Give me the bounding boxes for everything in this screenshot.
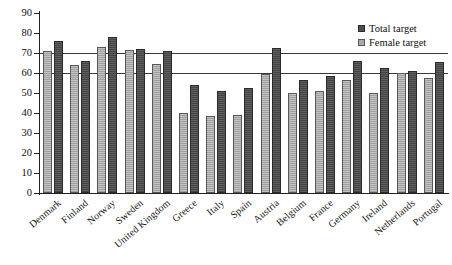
bar-group	[152, 13, 175, 193]
bar-female-united-kingdom	[152, 64, 161, 193]
y-axis-tick-label: 10	[6, 168, 32, 178]
bar-total-united-kingdom	[163, 51, 172, 193]
y-axis-tick-label: 30	[6, 128, 32, 138]
y-axis-tick-label: 50	[6, 88, 32, 98]
x-axis-tick-label: Belgium	[274, 197, 308, 228]
bar-group	[125, 13, 148, 193]
bar-female-finland	[70, 65, 79, 193]
x-axis-tick-label: United Kingdom	[112, 197, 172, 250]
legend-label: Total target	[369, 23, 417, 34]
bar-total-austria	[272, 48, 281, 193]
bar-female-italy	[206, 116, 215, 193]
bar-female-netherlands	[397, 73, 406, 193]
chart-legend: Total targetFemale target	[358, 22, 452, 50]
bar-female-belgium	[288, 93, 297, 193]
bar-total-spain	[244, 88, 253, 193]
x-axis-tick-label: Denmark	[27, 197, 63, 230]
bar-group	[179, 13, 202, 193]
bar-total-denmark	[54, 41, 63, 193]
bar-total-greece	[190, 85, 199, 193]
x-axis-tick-label: France	[307, 197, 335, 223]
bar-female-germany	[342, 80, 351, 193]
legend-item: Total target	[358, 22, 452, 34]
x-axis-tick-label: Austria	[251, 197, 281, 225]
bar-group	[315, 13, 338, 193]
bar-total-france	[326, 76, 335, 193]
bar-female-norway	[97, 47, 106, 193]
x-axis-tick-label: Netherlands	[372, 197, 417, 237]
bar-total-belgium	[299, 80, 308, 193]
bar-total-portugal	[435, 62, 444, 193]
x-axis-tick-label: Norway	[85, 197, 117, 227]
y-axis-tick-labels: 0102030405060708090	[0, 0, 32, 265]
bar-group	[233, 13, 256, 193]
bar-group	[261, 13, 284, 193]
x-axis-tick-label: Italy	[205, 197, 226, 218]
bar-female-austria	[261, 74, 270, 193]
bar-female-ireland	[369, 93, 378, 193]
x-axis-tick-label: Sweden	[113, 197, 145, 226]
x-axis-tick-label: Greece	[170, 197, 199, 224]
bar-group	[206, 13, 229, 193]
bar-total-finland	[81, 61, 90, 193]
bar-total-germany	[353, 61, 362, 193]
y-axis-tick-label: 90	[6, 8, 32, 18]
y-axis-tick-label: 80	[6, 28, 32, 38]
bar-female-denmark	[43, 51, 52, 193]
bar-group	[97, 13, 120, 193]
legend-swatch-icon	[358, 25, 365, 32]
bar-group	[70, 13, 93, 193]
bar-group	[43, 13, 66, 193]
x-axis-tick-label: Finland	[59, 197, 90, 226]
bar-female-france	[315, 91, 324, 193]
x-axis-tick-label: Portugal	[410, 197, 444, 228]
bar-female-spain	[233, 115, 242, 193]
legend-swatch-icon	[358, 39, 365, 46]
bar-total-italy	[217, 91, 226, 193]
legend-label: Female target	[369, 37, 426, 48]
bar-female-greece	[179, 113, 188, 193]
bar-total-sweden	[136, 49, 145, 193]
y-axis-tick-label: 40	[6, 108, 32, 118]
x-axis-tick-label: Germany	[326, 197, 362, 230]
bar-female-sweden	[125, 50, 134, 193]
x-axis-line	[39, 193, 449, 194]
y-axis-tick-label: 70	[6, 48, 32, 58]
legend-item: Female target	[358, 36, 452, 48]
bar-total-netherlands	[408, 71, 417, 193]
y-axis-tick-label: 20	[6, 148, 32, 158]
y-axis-tick-label: 60	[6, 68, 32, 78]
x-axis-tick-label: Ireland	[360, 197, 389, 224]
bar-total-norway	[108, 37, 117, 193]
bar-group	[288, 13, 311, 193]
bar-total-ireland	[380, 68, 389, 193]
y-axis-tick-label: 0	[6, 188, 32, 198]
x-axis-tick-label: Spain	[229, 197, 254, 220]
bar-female-portugal	[424, 78, 433, 193]
bar-chart: 0102030405060708090 DenmarkFinlandNorway…	[0, 0, 452, 265]
